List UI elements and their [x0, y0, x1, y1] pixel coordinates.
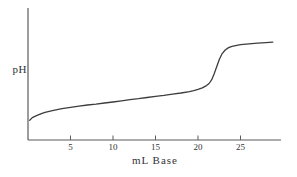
x-tick-label: 25: [231, 142, 251, 152]
y-axis-label: pH: [9, 63, 27, 75]
titration-chart: pH mL Base 510152025: [0, 0, 297, 177]
x-tick-label: 5: [61, 142, 81, 152]
x-axis-label: mL Base: [0, 154, 297, 166]
x-tick-label: 15: [146, 142, 166, 152]
titration-curve: [30, 42, 273, 120]
x-tick-label: 10: [103, 142, 123, 152]
x-tick-label: 20: [188, 142, 208, 152]
